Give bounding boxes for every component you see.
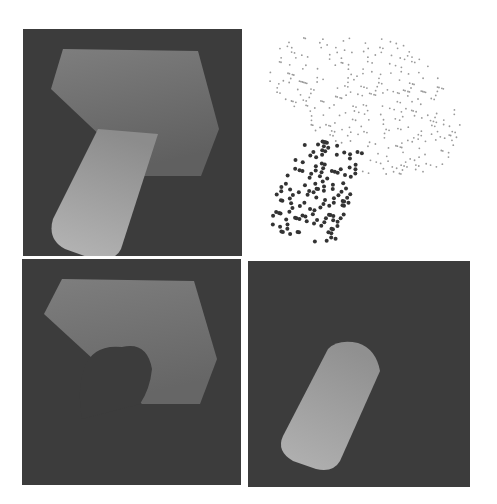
panel-point-cloud: [252, 29, 474, 256]
cylinder-shape: [52, 129, 159, 256]
panel-depth-full: [23, 29, 242, 256]
panel-depth-hole: [22, 259, 241, 485]
depth-image-hole: [22, 259, 241, 485]
point-cloud: [252, 29, 474, 256]
panel-depth-cylinder: [248, 261, 470, 487]
cylinder-shape: [281, 342, 380, 470]
depth-image-cylinder: [248, 261, 470, 487]
depth-image-full: [23, 29, 242, 256]
hole-shape: [80, 346, 152, 419]
